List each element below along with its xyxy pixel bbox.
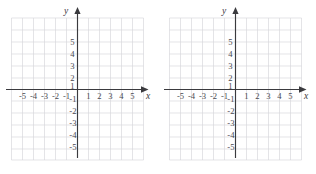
svg-text:5: 5 [70,37,74,47]
svg-text:4: 4 [277,91,282,101]
svg-text:2: 2 [97,91,101,101]
x-axis-label: x [303,91,309,101]
svg-text:5: 5 [288,91,292,101]
svg-text:1: 1 [228,81,232,91]
coordinate-grid-pair: -5 -4 -3 -2 -1 1 2 3 4 5 5 4 3 2 [0,0,316,174]
svg-text:-5: -5 [19,91,26,101]
svg-text:-4: -4 [69,130,77,140]
coordinate-plane-1: -5 -4 -3 -2 -1 1 2 3 4 5 5 4 3 2 [0,0,158,174]
svg-text:-1: -1 [227,94,234,104]
graph-slot-right: -5 -4 -3 -2 -1 1 2 3 4 5 5 4 3 2 1 [158,0,316,174]
svg-text:-4: -4 [227,130,235,140]
y-axis-arrow-icon [74,7,80,14]
svg-text:-1: -1 [69,94,76,104]
svg-text:3: 3 [70,61,74,71]
svg-text:4: 4 [119,91,124,101]
svg-text:-3: -3 [69,118,76,128]
svg-text:1: 1 [244,91,248,101]
y-axis-arrow-icon [232,7,238,14]
svg-text:-3: -3 [41,91,48,101]
svg-text:4: 4 [228,49,233,59]
x-tick-labels: -5 -4 -3 -2 -1 1 2 3 4 5 [177,91,293,101]
coordinate-plane-2: -5 -4 -3 -2 -1 1 2 3 4 5 5 4 3 2 1 [158,0,316,174]
x-axis-label: x [145,91,151,101]
graph-slot-left: -5 -4 -3 -2 -1 1 2 3 4 5 5 4 3 2 [0,0,158,174]
svg-text:-5: -5 [227,142,234,152]
svg-text:-5: -5 [177,91,184,101]
svg-text:-5: -5 [69,142,76,152]
svg-text:5: 5 [130,91,134,101]
svg-text:1: 1 [70,81,74,91]
svg-text:-2: -2 [227,106,234,116]
svg-text:-2: -2 [69,106,76,116]
svg-text:-4: -4 [188,91,196,101]
svg-text:3: 3 [266,91,270,101]
svg-text:1: 1 [86,91,90,101]
svg-text:3: 3 [108,91,112,101]
svg-text:-4: -4 [30,91,38,101]
x-tick-labels: -5 -4 -3 -2 -1 1 2 3 4 5 [19,91,135,101]
svg-text:4: 4 [70,49,75,59]
svg-text:-3: -3 [199,91,206,101]
y-axis-label: y [221,6,227,16]
svg-text:-2: -2 [210,91,217,101]
svg-text:2: 2 [255,91,259,101]
svg-text:-3: -3 [227,118,234,128]
svg-text:-2: -2 [52,91,59,101]
y-axis-label: y [63,6,69,16]
svg-text:3: 3 [228,61,232,71]
svg-text:5: 5 [228,37,232,47]
